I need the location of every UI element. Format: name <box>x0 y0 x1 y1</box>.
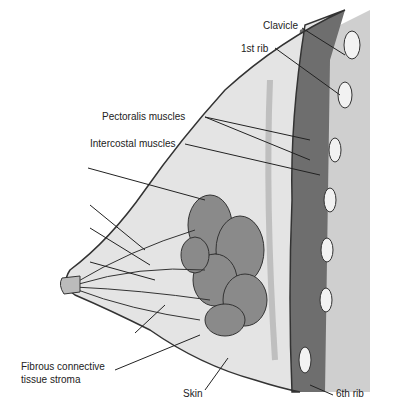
label-intercostal-muscles: Intercostal muscles <box>90 138 176 150</box>
nipple <box>60 276 80 294</box>
breast-anatomy-illustration <box>0 0 394 415</box>
label-pectoralis-muscles: Pectoralis muscles <box>102 111 185 123</box>
label-clavicle: Clavicle <box>263 20 298 32</box>
label-stroma-line1: Fibrous connective <box>21 361 105 373</box>
label-skin: Skin <box>183 388 202 400</box>
label-sixth-rib: 6th rib <box>336 388 364 400</box>
label-stroma-line2: tissue stroma <box>21 374 80 386</box>
label-first-rib: 1st rib <box>241 43 268 55</box>
